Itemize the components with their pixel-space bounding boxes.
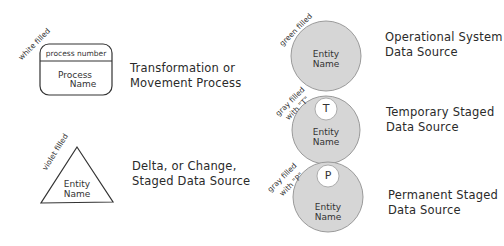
process-number-label: process number — [40, 49, 112, 59]
operational-description-line1: Operational System — [385, 30, 503, 45]
operational-entity-line1: Entity — [304, 49, 348, 59]
temporary-entity-line1: Entity — [304, 127, 348, 137]
delta-entity-line2: Name — [55, 189, 99, 199]
operational-description: Operational System Data Source — [385, 30, 503, 60]
process-description-line1: Transformation or — [130, 61, 241, 76]
operational-description-line2: Data Source — [385, 45, 503, 60]
delta-description-line2: Staged Data Source — [132, 174, 250, 189]
process-description-line2: Movement Process — [130, 76, 241, 91]
process-name-line2: Name — [58, 79, 108, 89]
delta-description: Delta, or Change, Staged Data Source — [132, 159, 250, 189]
permanent-entity-line1: Entity — [306, 202, 350, 212]
permanent-marker: P — [318, 170, 338, 182]
temporary-description-line1: Temporary Staged — [386, 105, 494, 120]
temporary-marker: T — [316, 103, 336, 115]
operational-entity-line2: Name — [304, 59, 348, 69]
permanent-description-line2: Data Source — [388, 203, 498, 218]
permanent-description: Permanent Staged Data Source — [388, 188, 498, 218]
process-description: Transformation or Movement Process — [130, 61, 241, 91]
temporary-description-line2: Data Source — [386, 120, 494, 135]
delta-description-line1: Delta, or Change, — [132, 159, 250, 174]
delta-entity-line1: Entity — [55, 179, 99, 189]
temporary-entity-line2: Name — [304, 137, 348, 147]
permanent-description-line1: Permanent Staged — [388, 188, 498, 203]
permanent-entity-line2: Name — [306, 212, 350, 222]
temporary-description: Temporary Staged Data Source — [386, 105, 494, 135]
